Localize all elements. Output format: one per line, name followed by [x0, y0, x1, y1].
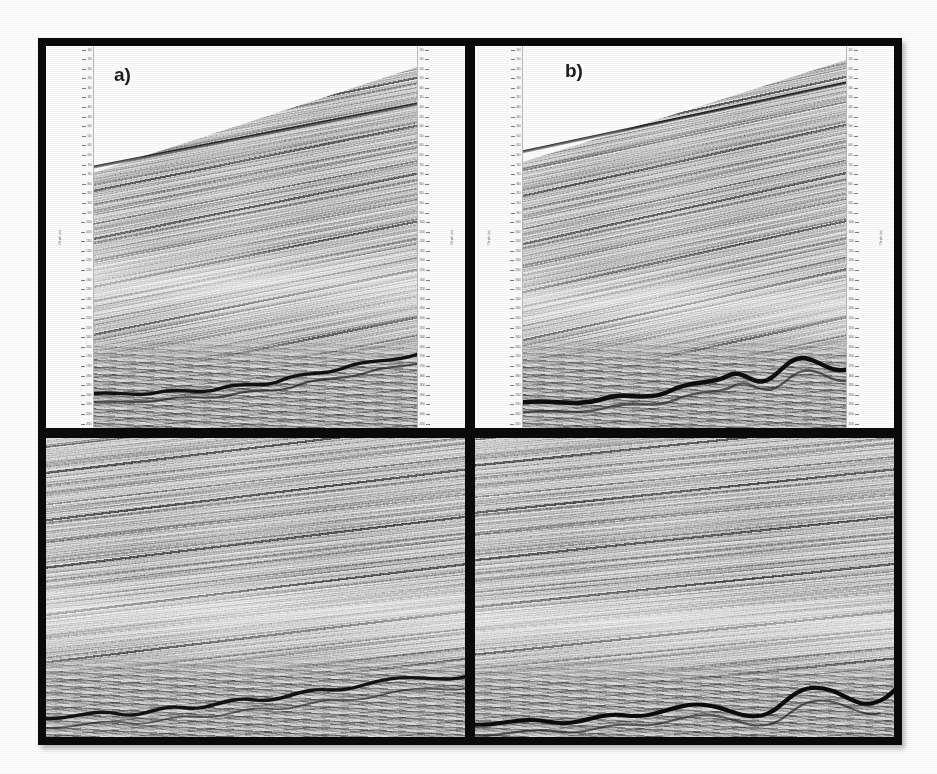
axis-tick-mark — [855, 414, 859, 415]
axis-ticks: 1001502002503003504004505005506006507007… — [475, 50, 523, 424]
axis-tick-label: 350 — [847, 96, 854, 99]
axis-tick-label: 800 — [418, 183, 425, 186]
axis-tick-label: 1300 — [418, 278, 426, 281]
axis-tick-label: 550 — [847, 135, 854, 138]
axis-tick-label: 1200 — [85, 259, 93, 262]
axis-tick-mark — [426, 376, 430, 377]
axis-tick-label: 700 — [86, 163, 93, 166]
axis-tick-label: 1350 — [85, 288, 93, 291]
axis-tick-label: 1700 — [418, 355, 426, 358]
axis-tick-label: 1600 — [847, 336, 855, 339]
axis-tick-mark — [855, 376, 859, 377]
axis-tick-mark — [426, 395, 430, 396]
panel-a-right-axis-title: Depth (m) — [449, 229, 453, 244]
axis-tick-mark — [426, 289, 430, 290]
axis-tick-mark — [855, 270, 859, 271]
panel-b-seismic-image — [523, 46, 846, 428]
axis-tick-label: 300 — [86, 87, 93, 90]
axis-tick-label: 800 — [847, 183, 854, 186]
axis-tick-mark — [854, 107, 858, 108]
axis-tick-mark — [426, 270, 430, 271]
axis-tick-label: 1650 — [847, 346, 855, 349]
axis-tick-label: 1650 — [418, 346, 426, 349]
axis-tick-mark — [854, 174, 858, 175]
axis-tick-label: 200 — [515, 67, 522, 70]
axis-tick-label: 1850 — [847, 384, 855, 387]
axis-tick-label: 100 — [847, 48, 854, 51]
axis-tick-label: 1850 — [514, 384, 522, 387]
axis-tick-label: 1850 — [85, 384, 93, 387]
axis-tick-label: 2000 — [847, 413, 855, 416]
panel-c[interactable] — [46, 438, 465, 737]
panel-a-right-axis: 1001502002503003504004505005506006507007… — [417, 46, 465, 428]
axis-tick-label: 1150 — [847, 250, 855, 253]
axis-tick-label: 1050 — [85, 230, 93, 233]
axis-tick-mark — [425, 78, 429, 79]
axis-ticks: 1001502002503003504004505005506006507007… — [846, 50, 894, 424]
axis-tick-label: 1800 — [514, 374, 522, 377]
axis-tick-mark — [854, 126, 858, 127]
axis-tick-label: 350 — [515, 96, 522, 99]
axis-tick-label: 1600 — [418, 336, 426, 339]
panel-b[interactable]: 1001502002503003504004505005506006507007… — [475, 46, 894, 428]
axis-tick-label: 1900 — [85, 393, 93, 396]
axis-tick-label: 600 — [515, 144, 522, 147]
axis-tick-label: 200 — [847, 67, 854, 70]
axis-tick-label: 1250 — [85, 269, 93, 272]
panel-b-left-axis: 1001502002503003504004505005506006507007… — [475, 46, 523, 428]
axis-tick-label: 600 — [418, 144, 425, 147]
axis-ticks: 1001502002503003504004505005506006507007… — [417, 50, 465, 424]
axis-tick-label: 900 — [515, 202, 522, 205]
axis-tick-mark — [425, 136, 429, 137]
panel-d[interactable] — [475, 438, 894, 737]
axis-tick-label: 1950 — [514, 403, 522, 406]
axis-tick-label: 1050 — [514, 230, 522, 233]
axis-tick-label: 200 — [418, 67, 425, 70]
axis-tick-label: 1000 — [85, 221, 93, 224]
axis-tick-label: 400 — [515, 106, 522, 109]
panel-a[interactable]: 1001502002503003504004505005506006507007… — [46, 46, 465, 428]
axis-tick-mark — [855, 395, 859, 396]
axis-tick-mark — [426, 251, 430, 252]
axis-tick-label: 1450 — [847, 307, 855, 310]
axis-tick-label: 100 — [86, 48, 93, 51]
panel-d-seismic-image — [475, 438, 894, 737]
axis-tick-mark — [855, 280, 859, 281]
axis-tick-label: 1500 — [514, 317, 522, 320]
axis-tick-label: 450 — [86, 115, 93, 118]
axis-tick-label: 750 — [515, 173, 522, 176]
axis-tick-mark — [854, 50, 858, 51]
axis-tick-mark — [425, 184, 429, 185]
axis-tick-mark — [426, 241, 430, 242]
axis-tick-label: 250 — [418, 77, 425, 80]
axis-tick-label: 200 — [86, 67, 93, 70]
axis-tick-mark — [854, 165, 858, 166]
axis-ticks: 1001502002503003504004505005506006507007… — [46, 50, 94, 424]
axis-tick-label: 2000 — [514, 413, 522, 416]
axis-tick-label: 1250 — [418, 269, 426, 272]
axis-tick-label: 1200 — [418, 259, 426, 262]
basal-reflector — [46, 644, 465, 734]
axis-tick-label: 450 — [847, 115, 854, 118]
axis-tick-label: 750 — [847, 173, 854, 176]
axis-tick-label: 250 — [847, 77, 854, 80]
axis-tick-label: 250 — [86, 77, 93, 80]
axis-tick-label: 1700 — [85, 355, 93, 358]
axis-tick-label: 750 — [86, 173, 93, 176]
panel-b-label: b) — [565, 60, 583, 82]
axis-tick-mark — [426, 414, 430, 415]
axis-tick-mark — [425, 50, 429, 51]
axis-tick-label: 850 — [86, 192, 93, 195]
axis-tick-label: 1250 — [514, 269, 522, 272]
axis-tick-mark — [425, 59, 429, 60]
axis-tick-label: 250 — [515, 77, 522, 80]
axis-tick-label: 400 — [418, 106, 425, 109]
axis-tick-label: 1100 — [418, 240, 426, 243]
axis-tick-label: 100 — [515, 48, 522, 51]
axis-tick-label: 1400 — [847, 298, 855, 301]
axis-tick-label: 1950 — [847, 403, 855, 406]
axis-tick-label: 450 — [515, 115, 522, 118]
axis-tick-mark — [426, 347, 430, 348]
axis-tick-label: 750 — [418, 173, 425, 176]
axis-tick-label: 700 — [847, 163, 854, 166]
